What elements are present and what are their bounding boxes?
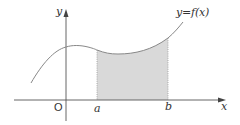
y-axis-arrow-icon <box>64 9 69 17</box>
integral-diagram: y O a b x y=f(x) <box>0 0 240 125</box>
lower-bound-label: a <box>94 103 101 114</box>
origin-label: O <box>54 102 63 113</box>
y-axis-label: y <box>56 6 62 17</box>
upper-bound-label: b <box>165 101 172 112</box>
x-axis-label: x <box>221 101 227 112</box>
function-label: y=f(x) <box>176 7 209 18</box>
shaded-area <box>97 38 168 100</box>
